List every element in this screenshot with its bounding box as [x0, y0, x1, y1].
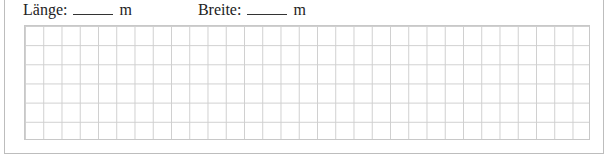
width-label: Breite:	[198, 1, 242, 18]
length-label: Länge:	[23, 1, 67, 18]
grid-paper	[24, 25, 590, 140]
length-blank[interactable]	[73, 2, 113, 15]
measurement-fields: Länge:m Breite:m	[23, 1, 306, 19]
width-unit: m	[293, 1, 305, 18]
width-blank[interactable]	[247, 2, 287, 15]
width-field: Breite:m	[198, 1, 306, 19]
length-unit: m	[119, 1, 131, 18]
length-field: Länge:m	[23, 1, 132, 19]
